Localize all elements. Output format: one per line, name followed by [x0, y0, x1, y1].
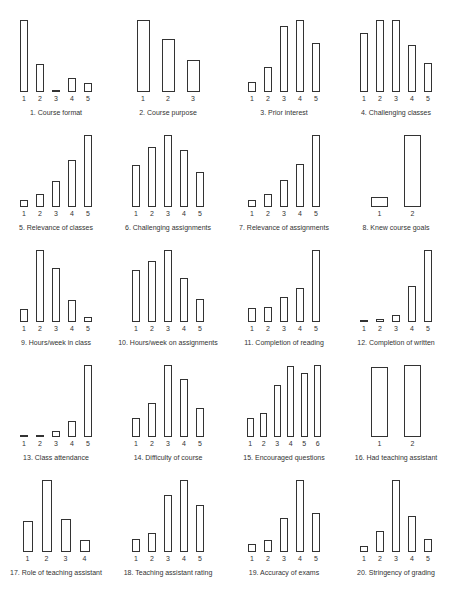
x-tick-label: 1 [136, 95, 150, 102]
bar [52, 268, 61, 322]
chart-title: 1. Course format [0, 109, 112, 116]
plot-area [112, 10, 224, 92]
bar [196, 505, 205, 552]
x-tick-label: 4 [65, 440, 79, 447]
x-tick-label: 1 [245, 555, 259, 562]
bar [392, 480, 401, 552]
x-tick-label: 4 [405, 325, 419, 332]
bar [68, 421, 77, 437]
plot-area [340, 10, 452, 92]
bar [280, 297, 289, 322]
plot-area [340, 125, 452, 207]
x-tick-label: 4 [293, 95, 307, 102]
x-tick-label: 4 [177, 555, 191, 562]
bar [132, 270, 141, 322]
bar [20, 200, 29, 207]
x-tick-label: 3 [277, 555, 291, 562]
bar [36, 64, 45, 92]
bar-chart-panel: 1234514. Difficulty of course [112, 355, 224, 470]
plot-area [228, 125, 340, 207]
bar [296, 288, 305, 322]
x-tick-label: 2 [261, 210, 275, 217]
bar-chart-panel: 1234512. Completion of written [340, 240, 452, 355]
x-tick-label: 2 [373, 325, 387, 332]
x-tick-label: 2 [33, 95, 47, 102]
bar [20, 309, 29, 322]
bar [148, 147, 157, 207]
x-tick-label: 2 [406, 210, 420, 217]
x-tick-label: 3 [270, 440, 284, 447]
plot-area [340, 240, 452, 322]
bar [61, 519, 71, 552]
x-tick-label: 1 [21, 555, 35, 562]
x-tick-label: 3 [389, 95, 403, 102]
bar [68, 78, 77, 92]
chart-title: 5. Relevance of classes [0, 224, 112, 231]
x-tick-label: 3 [161, 325, 175, 332]
bar [287, 366, 294, 437]
bar-chart-panel: 1234510. Hours/week on assignments [112, 240, 224, 355]
bar [23, 521, 33, 552]
bar [376, 319, 385, 322]
bar [148, 403, 157, 437]
bar [312, 513, 321, 552]
x-tick-label: 5 [81, 325, 95, 332]
chart-title: 13. Class attendance [0, 454, 112, 461]
x-tick-label: 1 [17, 440, 31, 447]
bar [84, 365, 93, 437]
x-tick-label: 4 [65, 210, 79, 217]
x-tick-label: 2 [373, 95, 387, 102]
bar [280, 518, 289, 552]
x-tick-label: 4 [177, 210, 191, 217]
plot-area [340, 355, 452, 437]
x-tick-label: 5 [193, 555, 207, 562]
x-tick-label: 2 [40, 555, 54, 562]
x-tick-label: 4 [65, 95, 79, 102]
x-tick-label: 4 [177, 325, 191, 332]
bar [196, 299, 205, 322]
x-tick-label: 5 [309, 555, 323, 562]
bar [360, 546, 369, 552]
bar [314, 365, 321, 437]
bar [148, 533, 157, 552]
x-tick-label: 5 [193, 325, 207, 332]
chart-title: 19. Accuracy of exams [228, 569, 340, 576]
x-tick-label: 3 [161, 555, 175, 562]
bar [424, 63, 433, 92]
plot-area [112, 125, 224, 207]
x-tick-label: 1 [243, 440, 257, 447]
plot-area [112, 470, 224, 552]
bar-chart-panel: 123453. Prior interest [228, 10, 340, 125]
x-tick-label: 2 [145, 325, 159, 332]
x-tick-label: 3 [277, 210, 291, 217]
bar [248, 308, 257, 322]
bar [280, 26, 289, 92]
x-tick-label: 4 [177, 440, 191, 447]
bar [52, 181, 61, 207]
plot-area [228, 470, 340, 552]
bar [180, 379, 189, 437]
x-tick-label: 3 [49, 325, 63, 332]
bar-chart-panel: 123451. Course format [0, 10, 112, 125]
bar [164, 250, 173, 322]
bar [274, 385, 281, 437]
bar [42, 480, 52, 552]
bar [180, 150, 189, 207]
x-tick-label: 4 [293, 210, 307, 217]
chart-title: 7. Relevance of assignments [228, 224, 340, 231]
chart-title: 20. Stringency of grading [340, 569, 452, 576]
bar [36, 194, 45, 207]
x-tick-label: 1 [129, 555, 143, 562]
bar [84, 83, 93, 92]
bar [260, 413, 267, 437]
x-tick-label: 3 [389, 555, 403, 562]
bar-chart-panel: 1234520. Stringency of grading [340, 470, 452, 585]
bar [371, 197, 388, 207]
chart-title: 18. Teaching assistant rating [112, 569, 224, 576]
bar [296, 480, 305, 552]
x-tick-label: 1 [129, 440, 143, 447]
chart-title: 11. Completion of reading [228, 339, 340, 346]
bar [392, 20, 401, 92]
bar [280, 180, 289, 207]
x-tick-label: 1 [129, 210, 143, 217]
